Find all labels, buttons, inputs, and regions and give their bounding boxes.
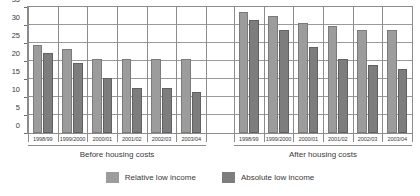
bar bbox=[162, 88, 172, 133]
panel-caption-after-housing-costs: After housing costs bbox=[233, 149, 413, 161]
bar bbox=[192, 92, 202, 133]
x-tick-label: 1999/2000 bbox=[264, 134, 294, 145]
bar-group bbox=[147, 7, 177, 133]
bar bbox=[268, 16, 278, 133]
legend-item-absolute-low-income: Absolute low income bbox=[222, 172, 314, 183]
panel-before-housing-costs bbox=[28, 7, 206, 133]
y-axis: 05101520253035 bbox=[0, 6, 25, 134]
legend-swatch-absolute-low-income bbox=[222, 172, 235, 183]
bar-group bbox=[353, 7, 383, 133]
bar-group bbox=[176, 7, 206, 133]
x-axis-baseline-before-housing-costs bbox=[28, 145, 206, 146]
bar-groups bbox=[28, 7, 412, 133]
panel-caption-before-housing-costs: Before housing costs bbox=[27, 149, 207, 161]
y-tick-label-5: 5 bbox=[0, 104, 25, 112]
category-separator bbox=[28, 7, 29, 142]
bar-group bbox=[117, 7, 147, 133]
bar bbox=[92, 59, 102, 133]
bar bbox=[309, 47, 319, 133]
x-tick-label: 1998/99 bbox=[28, 134, 58, 145]
legend-item-relative-low-income: Relative low income bbox=[106, 172, 196, 183]
bar bbox=[103, 78, 113, 133]
y-tick-label-30: 30 bbox=[0, 14, 25, 22]
bar-group bbox=[293, 7, 323, 133]
bar bbox=[387, 30, 397, 133]
x-tick-label: 2001/02 bbox=[117, 134, 147, 145]
y-tick-label-25: 25 bbox=[0, 32, 25, 40]
bar bbox=[239, 12, 249, 133]
bar bbox=[122, 59, 132, 133]
bar bbox=[33, 45, 43, 133]
x-axis-baseline-after-housing-costs bbox=[234, 145, 412, 146]
bar bbox=[151, 59, 161, 133]
bar bbox=[298, 23, 308, 133]
x-tick-label: 2000/01 bbox=[87, 134, 117, 145]
x-tick-label: 1998/99 bbox=[234, 134, 264, 145]
bar bbox=[398, 69, 408, 133]
bar-group bbox=[87, 7, 117, 133]
bar bbox=[328, 26, 338, 133]
legend-swatch-relative-low-income bbox=[106, 172, 119, 183]
legend-label-absolute-low-income: Absolute low income bbox=[241, 172, 314, 183]
panel-after-housing-costs bbox=[234, 7, 412, 133]
y-tick-label-20: 20 bbox=[0, 50, 25, 58]
bar bbox=[132, 88, 142, 133]
category-separator bbox=[206, 7, 207, 142]
x-tick-label: 2002/03 bbox=[147, 134, 177, 145]
chart-legend: Relative low income Absolute low income bbox=[0, 172, 420, 183]
bar-chart: 05101520253035 1998/991999/20002000/0120… bbox=[0, 0, 420, 196]
x-tick-label: 2002/03 bbox=[353, 134, 383, 145]
bar bbox=[279, 30, 289, 133]
y-tick-label-0: 0 bbox=[0, 122, 25, 130]
y-tick-label-35: 35 bbox=[0, 0, 25, 4]
x-tick-label: 2003/04 bbox=[382, 134, 412, 145]
bar bbox=[43, 53, 53, 133]
x-tick-label: 2000/01 bbox=[293, 134, 323, 145]
bar-group bbox=[28, 7, 58, 133]
x-tick-label: 2003/04 bbox=[176, 134, 206, 145]
bar bbox=[249, 20, 259, 133]
x-tick-labels-after-housing-costs: 1998/991999/20002000/012001/022002/03200… bbox=[234, 134, 412, 145]
bar bbox=[338, 59, 348, 133]
x-tick-label: 1999/2000 bbox=[58, 134, 88, 145]
bar bbox=[73, 63, 83, 133]
x-tick-label: 2001/02 bbox=[323, 134, 353, 145]
legend-label-relative-low-income: Relative low income bbox=[125, 172, 196, 183]
bar bbox=[62, 49, 72, 133]
bar bbox=[181, 59, 191, 133]
bar-group bbox=[382, 7, 412, 133]
y-tick-label-10: 10 bbox=[0, 86, 25, 94]
bar-group bbox=[323, 7, 353, 133]
category-separator bbox=[412, 7, 413, 142]
bar-group bbox=[58, 7, 88, 133]
x-tick-labels-before-housing-costs: 1998/991999/20002000/012001/022002/03200… bbox=[28, 134, 206, 145]
y-tick-label-15: 15 bbox=[0, 68, 25, 76]
bar bbox=[357, 30, 367, 133]
category-separator bbox=[234, 7, 235, 142]
bar-group bbox=[234, 7, 264, 133]
bar-group bbox=[264, 7, 294, 133]
bar bbox=[368, 65, 378, 133]
